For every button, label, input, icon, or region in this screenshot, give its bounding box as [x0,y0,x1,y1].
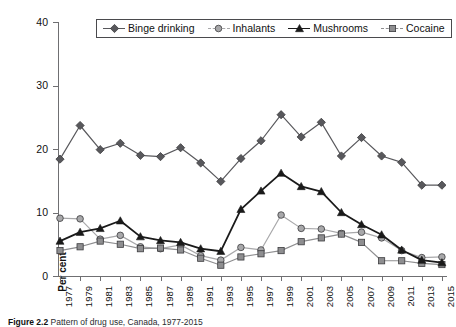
x-axis-tick [161,276,162,281]
chart-plot-area: Per cent 010203040 197719791981198319851… [58,14,447,277]
square-marker [318,235,324,241]
x-axis-tick [80,276,81,281]
y-axis-tick [53,213,58,214]
square-marker [57,248,63,254]
triangle-marker [277,169,285,176]
square-marker [399,258,405,264]
square-marker [137,246,143,252]
x-axis-tick [100,276,101,281]
x-axis-tick-label: 1983 [124,286,134,307]
legend-key [381,23,403,33]
x-axis-tick-label: 1999 [285,286,295,307]
x-axis-tick [140,276,141,281]
circle-marker [77,216,84,223]
series-mushrooms [56,169,446,266]
diamond-marker [116,139,124,147]
square-marker [178,247,184,253]
diamond-marker [317,118,325,126]
circle-marker [215,25,222,32]
x-axis-tick-label: 2011 [406,286,416,306]
legend-label: Mushrooms [313,22,368,34]
x-axis-tick-label: 2013 [426,286,436,307]
legend-key [288,23,310,33]
square-marker [338,231,344,237]
legend-item[interactable]: Binge drinking [103,22,195,34]
x-axis-tick-label: 1981 [104,286,114,307]
x-axis-tick [60,276,61,281]
x-axis-tick [402,276,403,281]
circle-marker [238,244,245,251]
square-marker [157,245,163,251]
circle-marker [278,212,285,219]
x-axis-tick [181,276,182,281]
legend-label: Inhalants [233,22,276,34]
square-marker [379,258,385,264]
legend-label: Binge drinking [128,22,195,34]
circle-marker [358,229,365,236]
figure-caption: Figure 2.2 Pattern of drug use, Canada, … [8,317,448,327]
x-axis-tick [241,276,242,281]
x-axis-tick-label: 2009 [386,286,396,307]
x-axis-tick-label: 1997 [265,286,275,307]
legend-key [103,23,125,33]
x-axis-tick [422,276,423,281]
x-axis-tick-label: 1989 [185,286,195,307]
square-marker [358,239,364,245]
y-axis-tick-label: 40 [14,17,48,28]
circle-marker [57,215,64,222]
series-binge-drinking [56,111,446,190]
triangle-marker [116,217,124,224]
y-axis-tick-label: 0 [14,271,48,282]
diamond-marker [110,24,118,32]
x-axis-tick-label: 2003 [325,286,335,307]
caption-number: 2.2 [36,317,48,327]
legend-item[interactable]: Cocaine [381,22,445,34]
x-axis-tick-label: 2015 [446,286,456,307]
legend-item[interactable]: Mushrooms [288,22,368,34]
series-line [60,115,442,185]
x-axis-tick [221,276,222,281]
y-axis-tick [53,149,58,150]
diamond-marker [56,155,64,163]
x-axis-tick [442,276,443,281]
square-marker [198,255,204,261]
circle-marker [318,226,325,233]
y-axis-tick-label: 10 [14,207,48,218]
diamond-marker [438,181,446,189]
square-marker [389,25,395,31]
chart-series-svg [58,14,447,277]
triangle-marker [358,221,366,228]
square-marker [77,244,83,250]
diamond-marker [156,153,164,161]
legend-item[interactable]: Inhalants [208,22,276,34]
square-marker [97,238,103,244]
triangle-marker [294,23,305,34]
x-axis-tick-label: 1991 [205,286,215,307]
x-axis-tick [382,276,383,281]
caption-label: Figure [8,317,34,327]
legend-label: Cocaine [406,22,445,34]
x-axis-tick [301,276,302,281]
y-axis-tick [53,22,58,23]
circle-marker [298,225,305,232]
x-axis-tick-label: 1977 [64,286,74,307]
y-axis-tick [53,276,58,277]
square-marker [218,262,224,268]
x-axis-tick [341,276,342,281]
x-axis-tick-label: 1987 [165,286,175,307]
caption-text: Pattern of drug use, Canada, 1977-2015 [51,317,203,327]
square-marker [298,239,304,245]
triangle-marker [295,24,303,31]
x-axis-tick [201,276,202,281]
x-axis-tick-label: 1985 [144,286,154,307]
square-marker [387,23,398,34]
x-axis-tick-label: 1979 [84,286,94,307]
figure-top-partial-text [60,0,445,8]
square-marker [117,241,123,247]
y-axis-tick [53,86,58,87]
circle-marker [117,232,124,239]
x-axis-tick [261,276,262,281]
triangle-marker [378,231,386,238]
square-marker [238,254,244,260]
